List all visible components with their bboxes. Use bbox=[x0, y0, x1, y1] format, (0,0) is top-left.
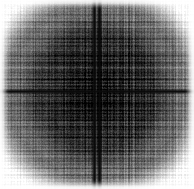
figure-container: Grayscale two-dimensional interference /… bbox=[0, 0, 194, 189]
spectrum-heatmap bbox=[0, 0, 194, 189]
